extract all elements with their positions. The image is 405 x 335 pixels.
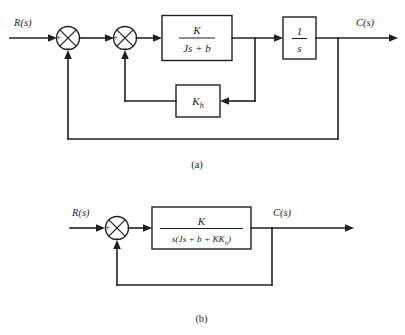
combined-denominator-pre: s(Js + b + KK: [172, 234, 226, 244]
arrowhead-block-input-b: [143, 224, 152, 232]
tachometer-block: Kh: [176, 85, 220, 117]
combined-block-numerator: K: [197, 215, 206, 227]
output-label-a: C(s): [356, 17, 375, 29]
caption-b: (b): [195, 313, 208, 325]
output-wire-a: [316, 34, 398, 42]
tachometer-subscript: h: [200, 101, 204, 110]
caption-a: (a): [191, 159, 203, 171]
integrator-block: 1 s: [283, 17, 316, 59]
diagram-b-group: R(s) + – K s(Js + b + KKh): [70, 207, 354, 325]
outer-sum-plus-sign: +: [56, 33, 60, 42]
input-wire-b: [70, 224, 105, 232]
arrowhead-kh-input: [220, 97, 229, 105]
output-wire-b: [251, 224, 354, 232]
outer-summing-junction: + –: [56, 27, 79, 52]
wire-sum2-to-plant: [137, 34, 163, 42]
wire-plant-to-integrator: [232, 34, 283, 42]
wire-sum1-to-sum2: [80, 34, 115, 42]
output-label-b: C(s): [273, 207, 292, 219]
plant-block: K Js + b: [162, 16, 232, 61]
wire-sum-to-block-b: [129, 224, 153, 232]
inner-summing-junction: + –: [113, 27, 136, 52]
input-label-a: R(s): [13, 17, 32, 29]
outer-sum-minus-sign: –: [65, 43, 70, 52]
diagram-a-group: R(s) + – + –: [10, 16, 398, 172]
block-diagram-figure: R(s) + – + –: [0, 0, 405, 335]
input-wire-a: [10, 34, 57, 42]
sum-b-minus-sign: –: [114, 233, 119, 242]
integrator-block-numerator: 1: [297, 25, 303, 37]
arrowhead-integrator-input: [274, 34, 283, 42]
inner-sum-plus-sign: +: [113, 33, 117, 42]
arrowhead-input-b: [96, 224, 105, 232]
input-label-b: R(s): [71, 207, 90, 219]
arrowhead-plant-input: [153, 34, 162, 42]
summing-junction-b: + –: [105, 217, 128, 242]
combined-block-denominator: s(Js + b + KKh): [172, 234, 231, 246]
integrator-block-denominator: s: [297, 42, 301, 54]
arrowhead-output-a: [389, 34, 398, 42]
sum-b-plus-sign: +: [105, 223, 109, 232]
arrowhead-output-b: [345, 224, 354, 232]
combined-block: K s(Js + b + KKh): [152, 207, 251, 249]
diagram-canvas: R(s) + – + –: [0, 0, 405, 335]
plant-block-denominator: Js + b: [183, 42, 211, 54]
inner-sum-minus-sign: –: [122, 43, 127, 52]
plant-block-numerator: K: [192, 24, 201, 36]
combined-denominator-post: ): [227, 234, 231, 244]
